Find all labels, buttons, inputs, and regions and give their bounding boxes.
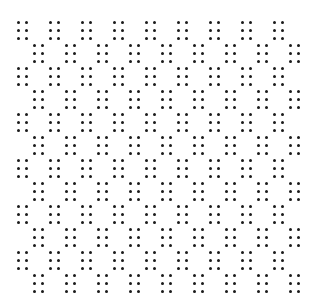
dot bbox=[17, 21, 20, 24]
dot bbox=[49, 251, 52, 254]
dot bbox=[281, 251, 284, 254]
dot bbox=[193, 190, 196, 193]
dot bbox=[169, 60, 172, 63]
dot bbox=[257, 236, 260, 239]
dot bbox=[193, 228, 196, 231]
dot bbox=[105, 244, 108, 247]
dot bbox=[113, 205, 116, 208]
dot-cluster bbox=[225, 228, 237, 248]
dot bbox=[185, 267, 188, 270]
dot bbox=[169, 228, 172, 231]
dot bbox=[209, 221, 212, 224]
dot-cluster bbox=[193, 44, 205, 64]
dot bbox=[241, 113, 244, 116]
dot bbox=[201, 44, 204, 47]
dot bbox=[193, 244, 196, 247]
dot bbox=[33, 44, 36, 47]
dot bbox=[177, 205, 180, 208]
dot-cluster bbox=[145, 67, 157, 87]
dot bbox=[17, 221, 20, 224]
dot-cluster bbox=[177, 21, 189, 41]
dot bbox=[89, 113, 92, 116]
dot bbox=[65, 152, 68, 155]
dot bbox=[241, 29, 244, 32]
dot bbox=[233, 144, 236, 147]
dot bbox=[273, 83, 276, 86]
dot bbox=[161, 182, 164, 185]
dot-cluster bbox=[225, 136, 237, 156]
dot bbox=[161, 190, 164, 193]
dot-cluster bbox=[289, 274, 301, 294]
dot-cluster bbox=[161, 228, 173, 248]
dot bbox=[73, 244, 76, 247]
dot bbox=[225, 290, 228, 293]
dot bbox=[81, 205, 84, 208]
dot bbox=[281, 37, 284, 40]
dot bbox=[17, 67, 20, 70]
dot bbox=[17, 121, 20, 124]
dot bbox=[129, 98, 132, 101]
dot bbox=[65, 274, 68, 277]
dot bbox=[97, 290, 100, 293]
dot bbox=[57, 267, 60, 270]
dot bbox=[161, 44, 164, 47]
dot bbox=[41, 182, 44, 185]
dot bbox=[217, 129, 220, 132]
dot bbox=[177, 67, 180, 70]
dot bbox=[97, 228, 100, 231]
dot bbox=[17, 159, 20, 162]
dot bbox=[33, 60, 36, 63]
dot bbox=[169, 136, 172, 139]
dot bbox=[121, 213, 124, 216]
dot bbox=[265, 228, 268, 231]
dot bbox=[33, 198, 36, 201]
dot bbox=[161, 136, 164, 139]
dot bbox=[169, 152, 172, 155]
dot bbox=[57, 259, 60, 262]
dot bbox=[201, 144, 204, 147]
dot-cluster bbox=[81, 67, 93, 87]
dot bbox=[169, 236, 172, 239]
dot bbox=[201, 90, 204, 93]
dot-cluster bbox=[129, 182, 141, 202]
dot bbox=[153, 221, 156, 224]
dot bbox=[217, 205, 220, 208]
dot bbox=[129, 52, 132, 55]
dot bbox=[177, 221, 180, 224]
dot-cluster bbox=[177, 159, 189, 179]
dot bbox=[177, 267, 180, 270]
dot-cluster bbox=[33, 44, 45, 64]
dot bbox=[177, 213, 180, 216]
dot bbox=[129, 182, 132, 185]
dot-cluster bbox=[241, 67, 253, 87]
dot bbox=[273, 167, 276, 170]
dot bbox=[153, 113, 156, 116]
dot bbox=[129, 236, 132, 239]
dot bbox=[161, 98, 164, 101]
dot bbox=[201, 282, 204, 285]
dot-cluster bbox=[17, 67, 29, 87]
dot bbox=[57, 29, 60, 32]
dot-cluster bbox=[81, 251, 93, 271]
dot bbox=[25, 75, 28, 78]
dot bbox=[169, 106, 172, 109]
dot bbox=[73, 90, 76, 93]
dot bbox=[217, 213, 220, 216]
dot bbox=[241, 221, 244, 224]
dot bbox=[121, 167, 124, 170]
dot-cluster bbox=[81, 21, 93, 41]
dot bbox=[97, 144, 100, 147]
dot bbox=[209, 259, 212, 262]
dot-cluster bbox=[273, 251, 285, 271]
dot bbox=[113, 21, 116, 24]
dot bbox=[113, 167, 116, 170]
dot bbox=[233, 282, 236, 285]
dot bbox=[185, 75, 188, 78]
dot-cluster bbox=[17, 21, 29, 41]
dot bbox=[169, 44, 172, 47]
dot-cluster bbox=[113, 21, 125, 41]
dot bbox=[281, 205, 284, 208]
dot bbox=[105, 44, 108, 47]
dot bbox=[145, 221, 148, 224]
dot bbox=[185, 221, 188, 224]
